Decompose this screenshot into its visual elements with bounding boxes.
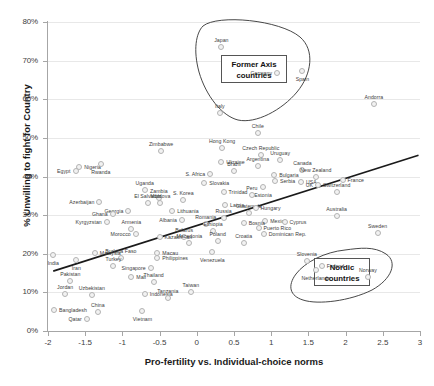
data-point[interactable] bbox=[158, 148, 164, 154]
data-point-label: Romania bbox=[195, 214, 216, 220]
data-point[interactable] bbox=[110, 211, 116, 217]
data-point-label: Italy bbox=[215, 103, 225, 109]
scatter-chart: % Unwilling to fight for Country Pro-fer… bbox=[0, 0, 434, 386]
data-point[interactable] bbox=[151, 279, 157, 285]
x-tick-mark bbox=[383, 331, 384, 336]
x-tick-mark bbox=[122, 331, 123, 336]
data-point[interactable] bbox=[375, 230, 381, 236]
data-point[interactable] bbox=[319, 263, 325, 269]
x-tick-label: 2 bbox=[326, 338, 366, 347]
data-point[interactable] bbox=[179, 217, 185, 223]
data-point-label: Brazil bbox=[227, 161, 240, 167]
data-point[interactable] bbox=[98, 161, 104, 167]
data-point-label: Andorra bbox=[364, 94, 383, 100]
data-point-label: Azerbaijan bbox=[69, 199, 94, 205]
y-tick-label: 60% bbox=[4, 94, 38, 103]
data-point[interactable] bbox=[142, 291, 148, 297]
data-point-label: Turkey bbox=[105, 256, 121, 262]
data-point[interactable] bbox=[241, 240, 247, 246]
y-tick-mark bbox=[43, 138, 48, 139]
y-tick-mark bbox=[43, 22, 48, 23]
data-point[interactable] bbox=[241, 220, 247, 226]
x-tick-mark bbox=[308, 331, 309, 336]
data-point[interactable] bbox=[365, 274, 371, 280]
y-tick-label: 70% bbox=[4, 56, 38, 65]
x-tick-label: 1 bbox=[251, 338, 291, 347]
data-point-label: Rwanda bbox=[91, 169, 110, 175]
y-tick-mark bbox=[43, 215, 48, 216]
data-point-label: Venezuela bbox=[200, 257, 225, 263]
x-tick-label: 0.5 bbox=[214, 338, 254, 347]
data-point-label: Croatia bbox=[235, 233, 252, 239]
data-point-label: Germany bbox=[250, 70, 272, 76]
data-point[interactable] bbox=[217, 110, 223, 116]
data-point[interactable] bbox=[51, 307, 57, 313]
data-point-label: Hong Kong bbox=[209, 138, 235, 144]
data-point[interactable] bbox=[255, 163, 261, 169]
data-point-label: Serbia bbox=[280, 178, 295, 184]
data-point-label: Canada bbox=[293, 160, 311, 166]
data-point[interactable] bbox=[253, 205, 259, 211]
data-point-label: Armenia bbox=[121, 219, 141, 225]
data-point[interactable] bbox=[104, 219, 110, 225]
data-point[interactable] bbox=[334, 189, 340, 195]
y-tick-label: 0% bbox=[4, 326, 38, 335]
data-point[interactable] bbox=[255, 130, 261, 136]
x-tick-mark bbox=[271, 331, 272, 336]
data-point-label: Singapore bbox=[122, 265, 146, 271]
y-tick-label: 40% bbox=[4, 172, 38, 181]
x-tick-label: -1.5 bbox=[65, 338, 105, 347]
y-tick-mark bbox=[43, 61, 48, 62]
data-point-label: Ghana bbox=[92, 211, 108, 217]
data-point[interactable] bbox=[50, 252, 56, 258]
data-point-label: S. Korea bbox=[173, 190, 194, 196]
y-tick-label: 20% bbox=[4, 249, 38, 258]
data-point[interactable] bbox=[221, 189, 227, 195]
data-point[interactable] bbox=[256, 225, 262, 231]
data-point-label: Hungary bbox=[261, 205, 281, 211]
x-tick-label: 0 bbox=[177, 338, 217, 347]
gridline-y bbox=[48, 177, 420, 178]
data-point-label: Belarus bbox=[175, 227, 193, 233]
data-point-label: Norway bbox=[359, 267, 377, 273]
data-point-label: Kyrgyzstan bbox=[76, 219, 102, 225]
data-point[interactable] bbox=[219, 145, 225, 151]
data-point-label: Slovakia bbox=[209, 180, 229, 186]
data-point-label: Burkina Faso bbox=[105, 248, 136, 254]
data-point[interactable] bbox=[145, 200, 151, 206]
data-point[interactable] bbox=[371, 101, 377, 107]
data-point-label: Trinidad bbox=[229, 189, 248, 195]
x-tick-label: 3 bbox=[400, 338, 434, 347]
data-point-label: Ethiopia bbox=[204, 221, 223, 227]
y-tick-mark bbox=[43, 177, 48, 178]
y-tick-label: 50% bbox=[4, 133, 38, 142]
data-point-label: Pakistan bbox=[60, 271, 80, 277]
data-point[interactable] bbox=[84, 316, 90, 322]
x-tick-label: -0.5 bbox=[140, 338, 180, 347]
data-point[interactable] bbox=[165, 295, 171, 301]
y-tick-mark bbox=[43, 254, 48, 255]
data-point-label: Morocco bbox=[111, 231, 131, 237]
data-point-label: Cyprus bbox=[290, 219, 307, 225]
data-point-label: Australia bbox=[326, 206, 347, 212]
x-tick-label: -1 bbox=[102, 338, 142, 347]
data-point-label: Dominican Rep. bbox=[269, 231, 307, 237]
data-point[interactable] bbox=[207, 171, 213, 177]
x-axis-title: Pro-fertility vs. Individual-choice norm… bbox=[48, 356, 420, 367]
data-point[interactable] bbox=[157, 234, 163, 240]
data-point[interactable] bbox=[272, 178, 278, 184]
x-tick-mark bbox=[234, 331, 235, 336]
data-point-label: Russia bbox=[216, 208, 232, 214]
data-point[interactable] bbox=[315, 182, 321, 188]
data-point-label: Switzerland bbox=[323, 182, 350, 188]
data-point-label: Netherlands bbox=[302, 275, 331, 281]
data-point[interactable] bbox=[334, 213, 340, 219]
data-point[interactable] bbox=[249, 192, 255, 198]
data-point[interactable] bbox=[260, 184, 266, 190]
data-point-label: India bbox=[47, 260, 59, 266]
x-tick-mark bbox=[48, 331, 49, 336]
data-point-label: Bangladesh bbox=[59, 307, 87, 313]
data-point[interactable] bbox=[188, 289, 194, 295]
x-tick-mark bbox=[85, 331, 86, 336]
data-point[interactable] bbox=[142, 187, 148, 193]
